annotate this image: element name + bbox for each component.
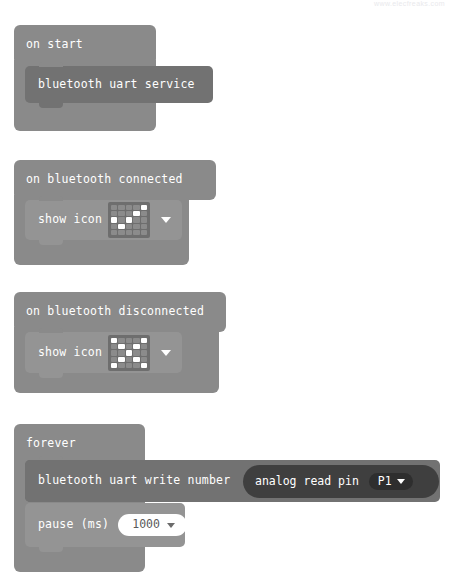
led-0-2 (126, 338, 132, 343)
notch-top-icon (39, 328, 63, 333)
led-0-3 (133, 338, 139, 343)
notch-bottom-icon (39, 103, 63, 108)
led-1-0 (111, 211, 117, 216)
chevron-down-icon (397, 479, 405, 484)
led-2-0 (111, 217, 117, 222)
led-0-4 (141, 205, 147, 210)
bluetooth-uart-write-number-label: bluetooth uart write number (38, 475, 230, 487)
led-4-1 (118, 230, 124, 235)
led-3-0 (111, 224, 117, 229)
led-1-4 (141, 344, 147, 349)
pause-ms-label: pause (ms) (38, 519, 109, 531)
led-2-4 (141, 350, 147, 355)
pin-value: P1 (378, 476, 392, 488)
notch-bottom-icon (39, 547, 63, 552)
led-2-2 (126, 350, 132, 355)
chevron-down-icon[interactable] (161, 350, 171, 356)
led-3-4 (141, 224, 147, 229)
led-1-2 (126, 211, 132, 216)
block-show-icon-yes[interactable]: show icon (25, 200, 182, 240)
led-3-2 (126, 357, 132, 362)
led-3-1 (118, 357, 124, 362)
on-bluetooth-disconnected-header[interactable]: on bluetooth disconnected (14, 292, 226, 332)
led-2-1 (118, 217, 124, 222)
led-2-2 (126, 217, 132, 222)
led-4-4 (141, 230, 147, 235)
led-4-1 (118, 363, 124, 368)
pause-duration-dropdown[interactable]: 1000 (118, 514, 187, 536)
on-start-label: on start (26, 39, 83, 51)
bluetooth-uart-service-label: bluetooth uart service (38, 79, 195, 91)
block-bluetooth-uart-service[interactable]: bluetooth uart service (25, 66, 213, 103)
on-bluetooth-connected-label: on bluetooth connected (26, 174, 183, 186)
on-bluetooth-disconnected-label: on bluetooth disconnected (26, 306, 204, 318)
notch-top-icon (39, 62, 63, 67)
led-1-3 (133, 211, 139, 216)
pin-dropdown[interactable]: P1 (369, 473, 413, 491)
led-0-4 (141, 338, 147, 343)
watermark-text: www.elecfreaks.com (374, 0, 445, 7)
no-icon[interactable] (108, 335, 150, 371)
led-3-1 (118, 224, 124, 229)
led-2-3 (133, 217, 139, 222)
analog-read-pin-label: analog read pin (255, 476, 359, 488)
chevron-down-icon[interactable] (161, 217, 171, 223)
led-4-4 (141, 363, 147, 368)
show-icon-label: show icon (38, 347, 102, 359)
led-4-0 (111, 363, 117, 368)
on-start-header[interactable]: on start (14, 25, 156, 65)
led-1-1 (118, 344, 124, 349)
led-2-0 (111, 350, 117, 355)
block-show-icon-no[interactable]: show icon (25, 332, 182, 373)
led-4-3 (133, 230, 139, 235)
yes-icon[interactable] (108, 202, 150, 238)
reporter-analog-read-pin[interactable]: analog read pin P1 (243, 465, 439, 498)
chevron-down-icon (167, 523, 175, 528)
show-icon-label: show icon (38, 214, 102, 226)
led-0-1 (118, 338, 124, 343)
on-bluetooth-connected-header[interactable]: on bluetooth connected (14, 160, 216, 200)
led-3-3 (133, 357, 139, 362)
blocks-workspace[interactable]: www.elecfreaks.com on start bluetooth ua… (0, 0, 449, 576)
led-3-3 (133, 224, 139, 229)
notch-top-icon (39, 196, 63, 201)
led-2-4 (141, 217, 147, 222)
led-1-3 (133, 344, 139, 349)
led-0-0 (111, 205, 117, 210)
notch-bottom-icon (39, 240, 63, 245)
block-pause-ms[interactable]: pause (ms) 1000 (25, 503, 185, 547)
led-4-2 (126, 230, 132, 235)
led-3-4 (141, 357, 147, 362)
led-0-1 (118, 205, 124, 210)
forever-label: forever (26, 438, 76, 450)
notch-bottom-icon (39, 373, 63, 378)
pause-duration-value: 1000 (132, 519, 160, 531)
led-2-1 (118, 350, 124, 355)
led-1-2 (126, 344, 132, 349)
led-1-4 (141, 211, 147, 216)
led-4-2 (126, 363, 132, 368)
led-0-3 (133, 205, 139, 210)
led-4-0 (111, 230, 117, 235)
led-0-0 (111, 338, 117, 343)
led-0-2 (126, 205, 132, 210)
led-3-0 (111, 357, 117, 362)
led-1-1 (118, 211, 124, 216)
led-2-3 (133, 350, 139, 355)
led-4-3 (133, 363, 139, 368)
led-1-0 (111, 344, 117, 349)
led-3-2 (126, 224, 132, 229)
